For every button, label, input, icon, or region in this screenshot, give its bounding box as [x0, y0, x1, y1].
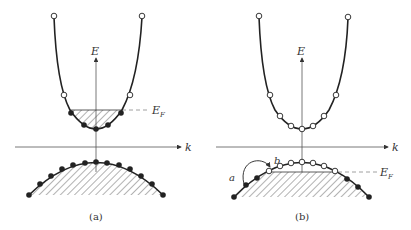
e-axis-label: E — [90, 45, 99, 58]
k-axis-label: k — [392, 141, 399, 154]
fermi-label: EF — [151, 104, 166, 119]
k-axis-label: k — [185, 141, 192, 154]
conduction-band — [259, 17, 348, 129]
band-diagram: E k EF — [0, 0, 411, 230]
e-axis-label: E — [296, 45, 305, 58]
panel-a: E k EF — [15, 13, 192, 222]
panel-b: E k EF a b — [216, 13, 399, 222]
empty-states-conduction — [256, 13, 351, 132]
fermi-label: EF — [379, 166, 394, 181]
caption-b: (b) — [295, 211, 309, 222]
filled-region-valence — [234, 172, 369, 197]
caption-a: (a) — [89, 211, 103, 222]
point-a-label: a — [229, 172, 235, 183]
